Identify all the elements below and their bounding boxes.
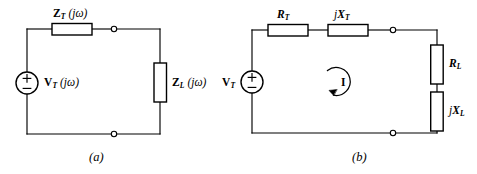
load-reactance-label: jXL	[449, 105, 465, 117]
thevenin-impedance-box	[52, 24, 92, 36]
bottom-terminal-node-b	[390, 130, 395, 135]
top-terminal-node-a	[111, 26, 116, 31]
thevenin-impedance-label: ZT (jω)	[53, 8, 87, 20]
load-reactance-box	[431, 92, 444, 131]
load-impedance-box	[154, 63, 167, 102]
load-resistance-label: RL	[449, 58, 462, 70]
top-terminal-node-b	[390, 27, 395, 32]
thevenin-reactance-box	[328, 25, 368, 37]
caption-a: (a)	[89, 151, 104, 164]
mesh-current-arrow	[328, 67, 351, 95]
circuit-figure: ZT (jω) VT (jω) ZL (jω) (a) RT jXT VT RL…	[0, 0, 477, 174]
thevenin-reactance-label: jXT	[334, 9, 350, 21]
load-impedance-label: ZL (jω)	[172, 77, 206, 89]
mesh-current-label: I	[341, 77, 345, 89]
thevenin-resistance-label: RT	[277, 9, 290, 21]
thevenin-source-label-a: VT (jω)	[44, 77, 79, 89]
thevenin-resistance-box	[268, 25, 308, 37]
bottom-terminal-node-a	[111, 131, 116, 136]
thevenin-source-label-b: VT	[222, 77, 235, 89]
caption-b: (b)	[352, 151, 367, 164]
load-resistance-box	[431, 45, 444, 84]
